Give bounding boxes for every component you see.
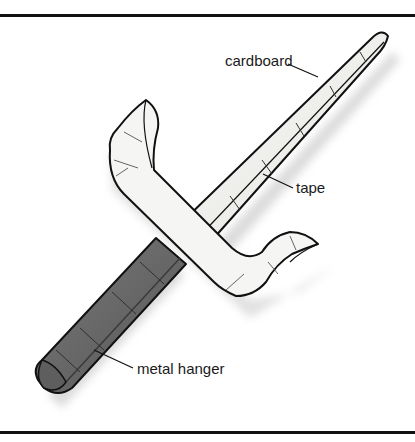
- label-cardboard: cardboard: [225, 53, 293, 68]
- label-metal-hanger: metal hanger: [137, 361, 225, 376]
- label-tape: tape: [296, 180, 325, 195]
- figure-frame: cardboard tape metal hanger: [0, 0, 415, 442]
